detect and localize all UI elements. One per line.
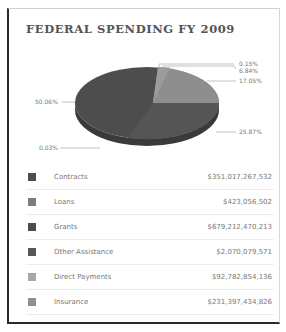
- legend-amount: $2,070,079,571: [216, 248, 272, 256]
- label-50-06: 50.06%: [35, 98, 58, 105]
- legend-amount: $423,056,502: [223, 198, 272, 206]
- pie-chart: 0.15% 6.84% 17.05% 50.06% 25.87% 0.03%: [0, 0, 286, 160]
- swatch-icon: [28, 273, 36, 281]
- legend: Contracts $351,017,267,532 Loans $423,05…: [26, 165, 274, 315]
- swatch-icon: [28, 173, 36, 181]
- legend-row-insurance[interactable]: Insurance $231,397,434,826: [26, 290, 274, 315]
- legend-row-grants[interactable]: Grants $679,212,470,213: [26, 215, 274, 240]
- legend-name: Insurance: [54, 298, 207, 306]
- legend-amount: $679,212,470,213: [207, 223, 272, 231]
- label-25-87: 25.87%: [239, 128, 262, 135]
- label-17-05: 17.05%: [239, 77, 262, 84]
- legend-row-direct-payments[interactable]: Direct Payments $92,782,854,136: [26, 265, 274, 290]
- legend-row-contracts[interactable]: Contracts $351,017,267,532: [26, 165, 274, 190]
- legend-name: Direct Payments: [54, 273, 212, 281]
- label-0-03: 0.03%: [39, 144, 58, 151]
- label-6-84: 6.84%: [239, 67, 258, 74]
- legend-name: Other Assistance: [54, 248, 216, 256]
- legend-amount: $231,397,434,826: [207, 298, 272, 306]
- legend-name: Loans: [54, 198, 223, 206]
- swatch-icon: [28, 248, 36, 256]
- legend-row-other-assistance[interactable]: Other Assistance $2,070,079,571: [26, 240, 274, 265]
- legend-amount: $351,017,267,532: [207, 173, 272, 181]
- legend-amount: $92,782,854,136: [212, 273, 272, 281]
- legend-name: Contracts: [54, 173, 207, 181]
- swatch-icon: [28, 198, 36, 206]
- label-0-15: 0.15%: [239, 60, 258, 67]
- legend-name: Grants: [54, 223, 207, 231]
- swatch-icon: [28, 223, 36, 231]
- legend-row-loans[interactable]: Loans $423,056,502: [26, 190, 274, 215]
- swatch-icon: [28, 298, 36, 306]
